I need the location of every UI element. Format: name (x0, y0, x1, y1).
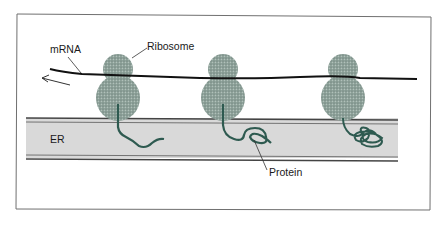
direction-arrow-icon (42, 75, 70, 85)
ribosome-label: Ribosome (147, 40, 194, 52)
mrna-leader-line (68, 57, 81, 73)
protein-label: Protein (269, 166, 302, 178)
er-membrane (26, 118, 398, 161)
diagram-canvas: mRNA Ribosome ER Protein (0, 0, 445, 225)
er-label: ER (50, 133, 65, 145)
ribosome-leader-line (132, 48, 147, 58)
mrna-label: mRNA (50, 43, 81, 55)
ribosome-3 (321, 54, 365, 121)
